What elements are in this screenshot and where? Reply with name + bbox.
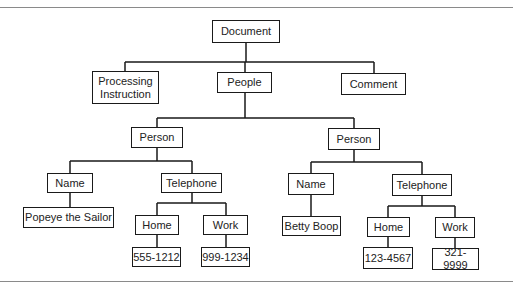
node-work-1: Work <box>203 215 248 235</box>
node-home-2: Home <box>367 217 410 237</box>
node-person-2: Person <box>328 128 380 150</box>
node-home-1: Home <box>135 215 179 235</box>
node-value-popeye: Popeye the Sailor <box>23 207 114 228</box>
node-value-betty: Betty Boop <box>282 216 341 236</box>
node-document: Document <box>212 20 280 43</box>
node-work-2: Work <box>435 217 475 238</box>
node-value-work-1: 999-1234 <box>201 247 250 267</box>
node-processing-instruction: Processing Instruction <box>92 71 159 104</box>
node-value-work-2: 321-9999 <box>432 248 479 270</box>
node-value-home-1: 555-1212 <box>132 247 181 267</box>
node-value-home-2: 123-4567 <box>363 247 413 269</box>
node-telephone-2: Telephone <box>392 174 452 196</box>
node-name-1: Name <box>47 173 93 193</box>
node-telephone-1: Telephone <box>161 173 222 193</box>
node-comment: Comment <box>341 73 406 95</box>
node-name-2: Name <box>288 173 334 195</box>
node-person-1: Person <box>131 127 183 148</box>
node-people: People <box>217 72 272 93</box>
